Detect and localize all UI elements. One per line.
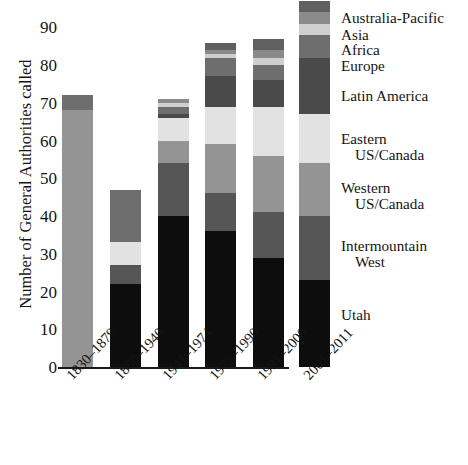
bar-segment <box>62 95 93 110</box>
legend-label: Eastern <box>341 130 387 147</box>
legend-label: Utah <box>341 306 371 323</box>
legend-label: Asia <box>341 26 369 43</box>
bar-segment <box>205 76 236 106</box>
bar-segment <box>158 118 189 141</box>
y-tick-80: 80 <box>40 57 57 74</box>
legend-item-europe: Europe <box>341 58 385 74</box>
legend-label: Australia-Pacific <box>341 9 444 26</box>
bar-segment <box>205 144 236 193</box>
bar-segment <box>299 163 330 216</box>
bar-segment <box>253 65 284 80</box>
y-tick-60: 60 <box>40 132 57 149</box>
chart-legend: Australia-PacificAsiaAfricaEuropeLatin A… <box>341 0 468 400</box>
bar-segment <box>299 1 330 12</box>
bar-segment <box>253 58 284 66</box>
bar-segment <box>205 107 236 145</box>
bar-segment <box>110 190 141 243</box>
bar-segment <box>253 107 284 156</box>
legend-item-utah: Utah <box>341 307 371 323</box>
bar-segment <box>158 141 189 164</box>
bar-segment <box>299 35 330 58</box>
bar-1991–2000 <box>253 39 284 367</box>
bar-segment <box>253 212 284 257</box>
y-axis-title: Number of General Authorities called <box>16 24 36 344</box>
bar-segment <box>205 43 236 51</box>
legend-label: Intermountain <box>341 237 427 254</box>
stacked-bar-chart: Number of General Authorities called 010… <box>0 0 468 465</box>
legend-label-line2: US/Canada <box>341 196 424 212</box>
legend-label: Europe <box>341 57 385 74</box>
y-tick-20: 20 <box>40 283 57 300</box>
legend-label: Western <box>341 179 390 196</box>
bar-segment <box>253 50 284 58</box>
legend-item-intermountain-west: IntermountainWest <box>341 238 427 271</box>
y-tick-70: 70 <box>40 94 57 111</box>
bar-segment <box>110 265 141 284</box>
bar-segment <box>253 80 284 106</box>
plot-area: 0102030405060708090 <box>62 10 289 367</box>
y-tick-40: 40 <box>40 208 57 225</box>
bar-2001–2011 <box>299 1 330 367</box>
bar-segment <box>158 107 189 115</box>
bar-segment <box>110 242 141 265</box>
legend-item-latin-america: Latin America <box>341 88 428 104</box>
legend-label: Africa <box>341 41 380 58</box>
bar-segment <box>253 156 284 213</box>
legend-item-africa: Africa <box>341 42 380 58</box>
y-tick-10: 10 <box>40 321 57 338</box>
bar-segment <box>253 39 284 50</box>
legend-item-asia: Asia <box>341 27 369 43</box>
legend-item-australia-pacific: Australia-Pacific <box>341 10 444 26</box>
bar-segment <box>158 163 189 216</box>
bar-segment <box>62 110 93 367</box>
bar-segment <box>299 114 330 163</box>
y-tick-0: 0 <box>49 359 58 376</box>
y-tick-90: 90 <box>40 19 57 36</box>
bar-segment <box>205 193 236 231</box>
legend-label-line2: West <box>341 254 427 270</box>
bar-segment <box>299 216 330 280</box>
bar-1941–1974 <box>158 99 189 367</box>
bar-1975–1990 <box>205 43 236 367</box>
bar-segment <box>299 24 330 35</box>
bar-1830–1879 <box>62 95 93 367</box>
bar-segment <box>299 58 330 115</box>
y-tick-50: 50 <box>40 170 57 187</box>
bar-segment <box>205 58 236 77</box>
legend-label: Latin America <box>341 87 428 104</box>
y-tick-30: 30 <box>40 245 57 262</box>
legend-label-line2: US/Canada <box>341 147 424 163</box>
legend-item-western-us-canada: WesternUS/Canada <box>341 180 424 213</box>
legend-item-eastern-us-canada: EasternUS/Canada <box>341 131 424 164</box>
bar-segment <box>299 12 330 23</box>
